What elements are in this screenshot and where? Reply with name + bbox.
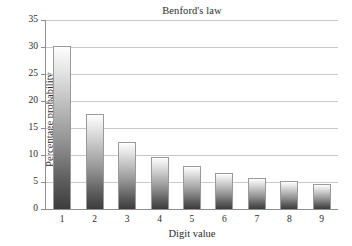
y-axis-tick-mark (41, 128, 46, 129)
x-axis-tick-label: 6 (208, 212, 240, 226)
chart-title: Benford's law (46, 5, 338, 16)
y-axis-tick-label: 25 (4, 69, 38, 79)
x-axis-tick-label: 8 (273, 212, 305, 226)
bar-digit-5 (183, 166, 201, 209)
y-axis-tick-label: 15 (4, 123, 38, 133)
y-axis-tick-mark (41, 47, 46, 48)
y-axis-tick-mark (41, 74, 46, 75)
bar-digit-9 (313, 184, 331, 209)
y-axis-tick-mark (41, 182, 46, 183)
bar-slot (241, 20, 273, 209)
y-axis-tick-label: 30 (4, 42, 38, 52)
bar-digit-8 (280, 181, 298, 209)
x-axis-tick-label: 7 (241, 212, 273, 226)
bar-digit-1 (53, 46, 71, 209)
benfords-law-chart-figure: Benford's law Percentage probability 051… (0, 0, 352, 246)
bar-digit-2 (86, 114, 104, 209)
x-axis-tick-label: 3 (111, 212, 143, 226)
bar-slot (306, 20, 338, 209)
bar-slot (176, 20, 208, 209)
x-axis-title: Digit value (46, 228, 338, 239)
x-axis-tick-label: 9 (306, 212, 338, 226)
x-axis-tick-label: 5 (176, 212, 208, 226)
bar-digit-4 (151, 157, 169, 209)
y-axis-tick-mark (41, 209, 46, 210)
bar-slot (208, 20, 240, 209)
y-axis-tick-label: 35 (4, 15, 38, 25)
bar-slot (273, 20, 305, 209)
y-axis-tick-label-group: 05101520253035 (0, 0, 38, 246)
x-axis-tick-label: 4 (143, 212, 175, 226)
y-axis-tick-mark (41, 20, 46, 21)
x-axis-tick-label: 1 (46, 212, 78, 226)
bar-slot (78, 20, 110, 209)
x-axis-tick-label-group: 123456789 (46, 212, 338, 226)
x-axis-tick-label: 2 (78, 212, 110, 226)
y-axis-tick-mark (41, 101, 46, 102)
bar-digit-7 (248, 178, 266, 209)
y-axis-tick-label: 5 (4, 177, 38, 187)
y-axis-tick-label: 20 (4, 96, 38, 106)
bar-slot (143, 20, 175, 209)
bar-slot (111, 20, 143, 209)
plot-area (46, 20, 338, 209)
gridline (46, 209, 338, 210)
bar-digit-6 (215, 173, 233, 209)
bar-digit-3 (118, 142, 136, 210)
y-axis-tick-mark (41, 155, 46, 156)
bar-series (46, 20, 338, 209)
y-axis-tick-label: 0 (4, 204, 38, 214)
y-axis-tick-label: 10 (4, 150, 38, 160)
bar-slot (46, 20, 78, 209)
